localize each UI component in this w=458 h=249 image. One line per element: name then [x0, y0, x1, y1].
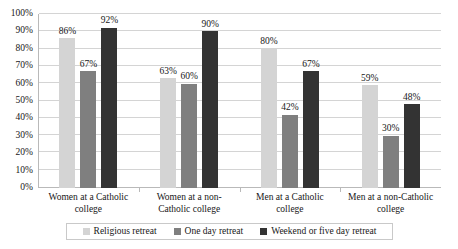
- bar-slot: 59%: [362, 14, 378, 188]
- bar-slot: 67%: [303, 14, 319, 188]
- y-axis-tick-label: 0%: [20, 183, 33, 193]
- bar-value-label: 63%: [159, 67, 176, 77]
- y-axis-tick-label: 80%: [16, 44, 33, 54]
- bar-value-label: 67%: [302, 60, 319, 70]
- bar[interactable]: [101, 28, 117, 188]
- plot-wrapper: 86%67%92%63%60%90%80%42%67%59%30%48%: [38, 14, 441, 188]
- bar-slot: 42%: [282, 14, 298, 188]
- bar-slot: 92%: [101, 14, 117, 188]
- legend-label: Weekend or five day retreat: [271, 227, 376, 237]
- y-axis-tick-label: 70%: [16, 61, 33, 71]
- bar-slot: 67%: [80, 14, 96, 188]
- category-labels: Women at a Catholic collegeWomen at a no…: [38, 192, 441, 215]
- category-label: Women at a non-Catholic college: [139, 192, 240, 215]
- legend-item[interactable]: One day retreat: [174, 227, 244, 237]
- bar[interactable]: [80, 71, 96, 188]
- category-label: Men at a Catholic college: [240, 192, 341, 215]
- y-axis-tick-label: 60%: [16, 79, 33, 89]
- legend-label: One day retreat: [185, 227, 244, 237]
- bar-groups: 86%67%92%63%60%90%80%42%67%59%30%48%: [38, 14, 441, 188]
- bar-slot: 86%: [59, 14, 75, 188]
- bar-slot: 80%: [261, 14, 277, 188]
- bar[interactable]: [59, 38, 75, 188]
- category-label: Women at a Catholic college: [38, 192, 139, 215]
- bar-slot: 30%: [383, 14, 399, 188]
- bar-value-label: 48%: [403, 93, 420, 103]
- y-axis-tick-label: 50%: [16, 96, 33, 106]
- bar-slot: 90%: [202, 14, 218, 188]
- legend-swatch-icon: [83, 228, 90, 235]
- bar-value-label: 42%: [281, 103, 298, 113]
- bar[interactable]: [160, 78, 176, 188]
- bar-value-label: 92%: [101, 16, 118, 26]
- bar[interactable]: [202, 31, 218, 188]
- legend-swatch-icon: [260, 228, 267, 235]
- bar-group: 59%30%48%: [340, 14, 441, 188]
- bar-slot: 60%: [181, 14, 197, 188]
- bar-value-label: 59%: [361, 74, 378, 84]
- bar[interactable]: [404, 104, 420, 188]
- bar[interactable]: [282, 115, 298, 188]
- bar-group: 80%42%67%: [240, 14, 341, 188]
- bar-value-label: 90%: [201, 20, 218, 30]
- y-axis-tick-label: 90%: [16, 27, 33, 37]
- chart-legend: Religious retreatOne day retreatWeekend …: [66, 223, 393, 240]
- bar-slot: 48%: [404, 14, 420, 188]
- y-axis-tick-label: 30%: [16, 131, 33, 141]
- legend-swatch-icon: [174, 228, 181, 235]
- legend-label: Religious retreat: [94, 227, 157, 237]
- y-axis-tick-label: 20%: [16, 148, 33, 158]
- category-label: Men at a non-Catholic college: [340, 192, 441, 215]
- bar-slot: 63%: [160, 14, 176, 188]
- y-axis-tick-label: 10%: [16, 166, 33, 176]
- bar-group: 63%60%90%: [139, 14, 240, 188]
- bar[interactable]: [383, 136, 399, 188]
- bar-value-label: 67%: [80, 60, 97, 70]
- bar[interactable]: [181, 84, 197, 188]
- bar[interactable]: [261, 49, 277, 188]
- bar-chart: 0%10%20%30%40%50%60%70%80%90%100% 86%67%…: [0, 0, 458, 249]
- bar-value-label: 30%: [382, 124, 399, 134]
- bar[interactable]: [303, 71, 319, 188]
- y-axis-tick-label: 100%: [11, 9, 33, 19]
- legend-item[interactable]: Religious retreat: [83, 227, 157, 237]
- y-axis-tick-label: 40%: [16, 114, 33, 124]
- bar-value-label: 80%: [260, 37, 277, 47]
- bar[interactable]: [362, 85, 378, 188]
- legend-item[interactable]: Weekend or five day retreat: [260, 227, 376, 237]
- bar-value-label: 60%: [180, 72, 197, 82]
- bar-value-label: 86%: [59, 27, 76, 37]
- y-axis: 0%10%20%30%40%50%60%70%80%90%100%: [0, 14, 36, 188]
- bar-group: 86%67%92%: [38, 14, 139, 188]
